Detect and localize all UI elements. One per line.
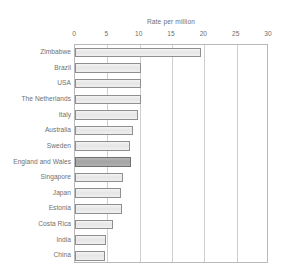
- x-tick-label: 25: [232, 30, 239, 37]
- category-label: China: [0, 247, 71, 263]
- bar: [75, 188, 121, 198]
- bar-row: [75, 45, 267, 61]
- bar-row: [75, 155, 267, 171]
- bar: [75, 251, 105, 261]
- bar-row: [75, 201, 267, 217]
- chart-title: [0, 0, 283, 3]
- bar: [75, 204, 122, 214]
- y-axis-category-labels: ZimbabweBrazilUSAThe NetherlandsItalyAus…: [0, 44, 71, 263]
- category-label: England and Wales: [0, 154, 71, 170]
- category-label: Singapore: [0, 169, 71, 185]
- bar-row: [75, 217, 267, 233]
- category-label: Australia: [0, 122, 71, 138]
- category-label: Japan: [0, 185, 71, 201]
- bar: [75, 235, 106, 245]
- bar: [75, 141, 130, 151]
- category-label: Estonia: [0, 200, 71, 216]
- bar-row: [75, 108, 267, 124]
- x-tick-label: 5: [104, 30, 108, 37]
- bar-row: [75, 61, 267, 77]
- bar-row: [75, 248, 267, 264]
- x-tick-label: 10: [135, 30, 142, 37]
- bar: [75, 173, 123, 183]
- category-label: Italy: [0, 107, 71, 123]
- bar: [75, 48, 201, 58]
- bar-rows: [75, 45, 267, 262]
- bar: [75, 79, 141, 89]
- bar-row: [75, 233, 267, 249]
- bar: [75, 110, 138, 120]
- category-label: Costa Rica: [0, 216, 71, 232]
- x-axis-caption: Rate per million: [74, 18, 268, 25]
- plot-area: [74, 44, 268, 263]
- x-tick-label: 30: [264, 30, 271, 37]
- bar-row: [75, 76, 267, 92]
- bar-row: [75, 92, 267, 108]
- x-axis-tick-labels: 051015202530: [0, 30, 283, 41]
- bar-row: [75, 170, 267, 186]
- bar: [75, 95, 141, 105]
- category-label: Sweden: [0, 138, 71, 154]
- category-label: USA: [0, 75, 71, 91]
- x-tick-label: 20: [200, 30, 207, 37]
- bar: [75, 63, 141, 73]
- category-label: The Netherlands: [0, 91, 71, 107]
- bar: [75, 157, 131, 167]
- bar-chart: Rate per million 051015202530 ZimbabweBr…: [0, 0, 283, 272]
- category-label: Zimbabwe: [0, 44, 71, 60]
- bar-row: [75, 123, 267, 139]
- category-label: Brazil: [0, 60, 71, 76]
- bar-row: [75, 139, 267, 155]
- x-tick-label: 15: [167, 30, 174, 37]
- x-tick-label: 0: [72, 30, 76, 37]
- bar: [75, 220, 113, 230]
- bar: [75, 126, 133, 136]
- category-label: India: [0, 232, 71, 248]
- bar-row: [75, 186, 267, 202]
